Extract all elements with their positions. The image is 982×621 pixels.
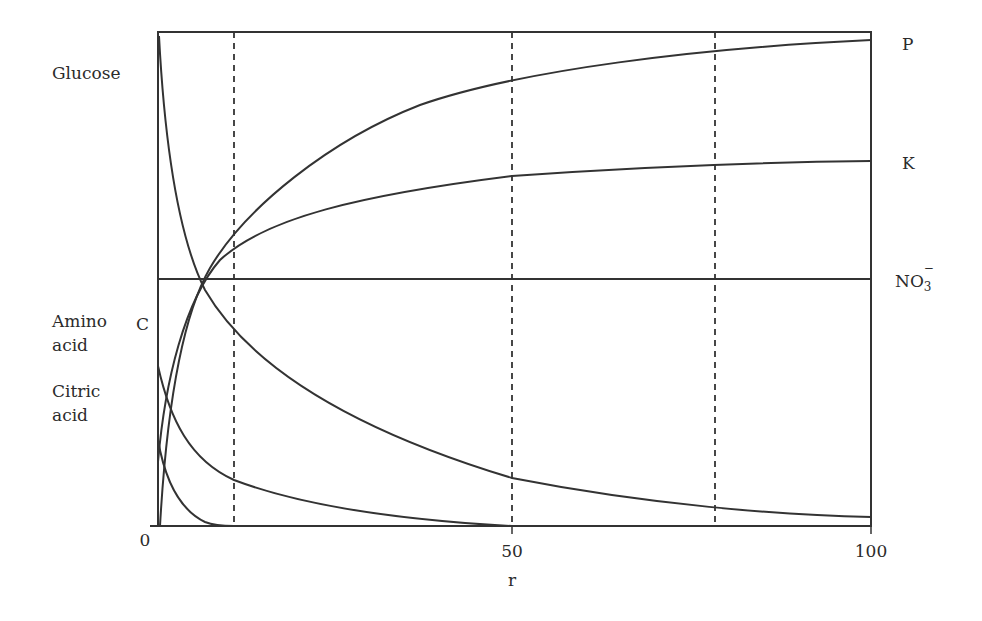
label-amino-acid-1: Amino — [52, 310, 107, 332]
label-glucose: Glucose — [52, 62, 121, 84]
no3-text: NO — [895, 271, 924, 291]
chart-plot-area — [0, 0, 982, 621]
series-amino-acid — [158, 366, 512, 526]
x-tick-50: 50 — [501, 541, 523, 561]
label-amino-acid-2: acid — [52, 334, 88, 356]
series-p — [160, 40, 871, 526]
y-axis-label: C — [136, 313, 149, 335]
label-no3: NO3− — [895, 270, 931, 298]
label-citric-acid-2: acid — [52, 404, 88, 426]
series-glucose — [159, 36, 871, 517]
label-p: P — [902, 33, 913, 55]
no3-subscript: 3 — [924, 280, 932, 294]
label-k: K — [902, 152, 915, 174]
x-axis-label: r — [508, 570, 516, 590]
label-citric-acid-1: Citric — [52, 380, 100, 402]
no3-superscript: − — [924, 257, 934, 279]
x-tick-0: 0 — [140, 530, 151, 550]
series-k — [158, 161, 871, 462]
x-tick-100: 100 — [855, 541, 887, 561]
